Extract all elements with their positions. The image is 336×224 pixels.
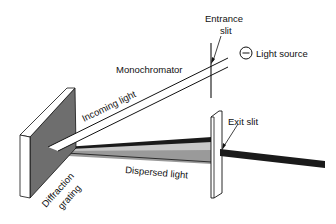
light-source — [240, 47, 252, 59]
monochromator-diagram: Entrance slit Light source Monochromator… — [0, 0, 336, 224]
entrance-slit-label-line2: slit — [220, 25, 232, 36]
light-source-label: Light source — [256, 48, 308, 59]
exit-slit-label: Exit slit — [228, 116, 258, 127]
entrance-slit-label: Entrance — [205, 13, 243, 24]
monochromator-label: Monochromator — [116, 64, 183, 75]
dispersed-light-label: Dispersed light — [125, 164, 189, 180]
output-beam — [220, 149, 325, 168]
